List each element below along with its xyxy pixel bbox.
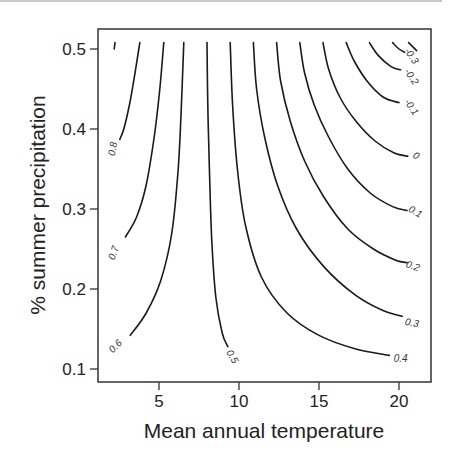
contour-label: 0 <box>411 149 422 161</box>
contour-label: 0.8 <box>106 141 119 157</box>
contour-line <box>300 43 407 211</box>
contour-line <box>125 43 163 237</box>
contour-label: 0.7 <box>106 244 121 261</box>
x-tick-label: 20 <box>390 392 409 411</box>
x-axis: 5101520 <box>154 382 408 411</box>
contour-label: 0.3 <box>404 316 420 329</box>
y-tick-label: 0.4 <box>62 120 86 139</box>
contour-line <box>130 43 184 336</box>
contour-label: 0.5 <box>224 348 241 366</box>
x-axis-title: Mean annual temperature <box>144 419 385 442</box>
contour-labels: 0.80.70.60.50.40.30.20.10-0.1-0.2-0.3 <box>106 45 424 365</box>
contour-lines <box>114 43 416 356</box>
y-tick-label: 0.5 <box>62 40 86 59</box>
x-tick-label: 15 <box>310 392 329 411</box>
x-tick-label: 10 <box>230 392 249 411</box>
y-tick-label: 0.2 <box>62 280 86 299</box>
x-tick-label: 5 <box>154 392 163 411</box>
contour-label: 0.2 <box>404 258 421 273</box>
contour-line <box>346 43 399 103</box>
y-tick-label: 0.3 <box>62 200 86 219</box>
y-axis-title: % summer precipitation <box>26 95 49 314</box>
plot-frame <box>98 29 431 382</box>
y-axis: 0.10.20.30.40.5 <box>62 40 98 379</box>
contour-label: -0.3 <box>402 45 421 66</box>
contour-chart: 0.80.70.60.50.40.30.20.10-0.1-0.2-0.3 51… <box>0 0 456 467</box>
contour-label: 0.6 <box>106 337 124 355</box>
contour-label: 0.4 <box>394 353 408 364</box>
contour-line <box>120 43 140 140</box>
y-tick-label: 0.1 <box>62 360 86 379</box>
contour-label: -0.1 <box>402 97 421 117</box>
contour-line <box>253 43 402 317</box>
contour-line <box>114 43 115 49</box>
contour-label: 0.1 <box>407 203 425 219</box>
contour-label: -0.2 <box>402 66 421 87</box>
contour-line <box>323 43 408 157</box>
contour-line <box>207 43 228 347</box>
